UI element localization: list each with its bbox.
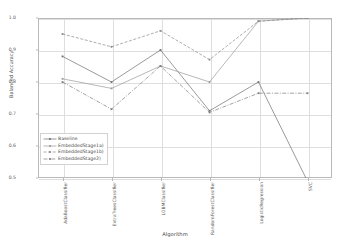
- data-point-marker: [258, 92, 260, 94]
- x-axis-tick-label: RandomForestClassifier: [211, 182, 216, 235]
- line-chart-figure: Balanced Accuracy 1.00.90.80.70.60.5 Ada…: [0, 0, 350, 249]
- legend-item[interactable]: Baseline: [43, 136, 104, 143]
- x-axis-tick-mark: [308, 178, 309, 181]
- legend-item[interactable]: EmbeddedStage2): [43, 156, 104, 163]
- data-point-marker: [62, 33, 64, 35]
- x-axis-tick-label: SVC: [309, 182, 314, 191]
- series-line: [63, 66, 308, 112]
- y-axis-title: Balanced Accuracy: [8, 50, 14, 98]
- y-axis-tick-label: 0.8: [9, 80, 16, 85]
- legend-item-label: EmbeddedStage2): [58, 157, 101, 162]
- legend-line-swatch-icon: [43, 149, 57, 155]
- data-point-marker: [307, 18, 309, 19]
- data-point-marker: [62, 56, 64, 58]
- data-point-marker: [258, 81, 260, 83]
- legend-item-label: EmbeddedStage1b): [58, 150, 104, 155]
- y-axis-tick-label: 0.9: [9, 48, 16, 53]
- legend-line-swatch-icon: [43, 143, 57, 149]
- data-point-marker: [111, 88, 113, 90]
- x-axis-tick-label: LGBMClassifier: [162, 182, 167, 216]
- x-axis-tick-label: ExtraTreesClassifier: [113, 182, 118, 226]
- data-point-marker: [111, 81, 113, 83]
- data-point-marker: [160, 30, 162, 32]
- series-embeddedstage1a-: [62, 18, 309, 89]
- series-line: [63, 18, 308, 88]
- data-point-marker: [62, 78, 64, 80]
- x-axis-tick-mark: [259, 178, 260, 181]
- legend-item-label: EmbeddedStage1a): [58, 144, 104, 149]
- legend-item[interactable]: EmbeddedStage1a): [43, 143, 104, 150]
- x-axis-tick-mark: [210, 178, 211, 181]
- data-point-marker: [307, 92, 309, 94]
- y-axis-tick-label: 0.7: [9, 112, 16, 117]
- data-point-marker: [111, 46, 113, 48]
- y-axis-tick-label: 0.5: [9, 176, 16, 181]
- data-point-marker: [62, 81, 64, 83]
- data-point-marker: [111, 108, 113, 110]
- chart-legend[interactable]: BaselineEmbeddedStage1a)EmbeddedStage1b)…: [40, 133, 108, 165]
- data-point-marker: [209, 81, 211, 83]
- legend-item[interactable]: EmbeddedStage1b): [43, 149, 104, 156]
- x-axis-tick-mark: [63, 178, 64, 181]
- data-point-marker: [160, 49, 162, 51]
- series-embeddedstage2-: [62, 65, 309, 113]
- legend-line-swatch-icon: [43, 136, 57, 142]
- series-line: [63, 18, 308, 60]
- data-point-marker: [209, 112, 211, 114]
- legend-item-label: Baseline: [58, 137, 77, 142]
- legend-line-swatch-icon: [43, 156, 57, 162]
- data-point-marker: [258, 20, 260, 22]
- y-axis-tick-label: 0.6: [9, 144, 16, 149]
- x-axis-title: Algorithm: [0, 231, 350, 237]
- y-axis-tick-label: 1.0: [9, 16, 16, 21]
- x-axis-tick-label: AdaBoostClassifier: [64, 182, 69, 224]
- x-axis-tick-mark: [112, 178, 113, 181]
- x-axis-tick-label: LogisticRegression: [260, 182, 265, 224]
- data-point-marker: [160, 65, 162, 67]
- series-embeddedstage1b-: [62, 18, 309, 61]
- gridline-horizontal: [39, 179, 331, 180]
- data-point-marker: [209, 59, 211, 61]
